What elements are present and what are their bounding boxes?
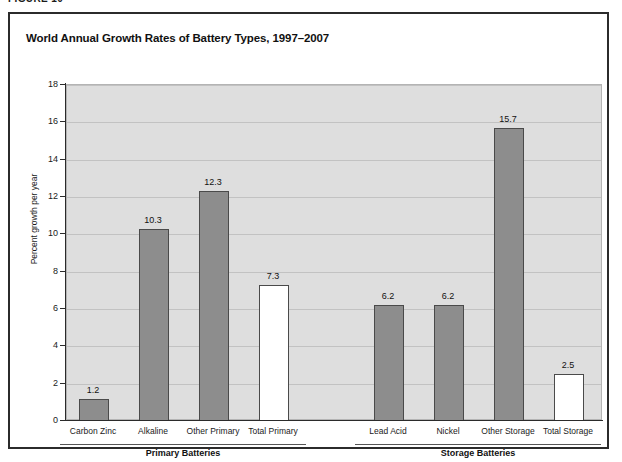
bar[interactable] (374, 305, 404, 421)
bar-value-label: 7.3 (267, 271, 280, 281)
y-axis-tick (60, 420, 65, 421)
y-axis-tick (60, 383, 65, 384)
bar-value-label: 10.3 (144, 215, 162, 225)
bar[interactable] (259, 285, 289, 421)
y-axis-tick-label: 4 (14, 340, 58, 350)
bar[interactable] (199, 191, 229, 421)
category-label: Other Primary (187, 426, 240, 436)
y-axis-tick (60, 159, 65, 160)
gridline (67, 122, 601, 123)
y-axis-tick (60, 84, 65, 85)
category-label: Carbon Zinc (70, 426, 116, 436)
y-axis-tick (60, 233, 65, 234)
group-bracket-line (355, 444, 601, 445)
bar-value-label: 2.5 (562, 360, 575, 370)
y-axis-tick (60, 121, 65, 122)
category-label: Total Storage (543, 426, 593, 436)
category-label: Nickel (436, 426, 459, 436)
y-axis-tick-label: 2 (14, 378, 58, 388)
bar[interactable] (494, 128, 524, 421)
group-bracket-line (60, 444, 306, 445)
bar-value-label: 6.2 (382, 291, 395, 301)
figure-frame: World Annual Growth Rates of Battery Typ… (8, 12, 609, 449)
y-axis-tick (60, 271, 65, 272)
category-label: Lead Acid (369, 426, 406, 436)
figure-caption: FIGURE 10 (8, 0, 63, 4)
bar-value-label: 12.3 (204, 177, 222, 187)
bar[interactable] (554, 374, 584, 421)
group-label: Primary Batteries (146, 448, 221, 458)
chart-title: World Annual Growth Rates of Battery Typ… (26, 32, 329, 44)
bar-value-label: 15.7 (499, 114, 517, 124)
bar-value-label: 6.2 (442, 291, 455, 301)
y-axis-tick (60, 308, 65, 309)
group-label: Storage Batteries (441, 448, 516, 458)
y-axis-tick-label: 0 (14, 415, 58, 425)
bar[interactable] (139, 229, 169, 421)
y-axis-tick-label: 16 (14, 116, 58, 126)
category-label: Alkaline (138, 426, 168, 436)
y-axis-title: Percent growth per year (29, 149, 39, 289)
y-axis-tick-label: 6 (14, 303, 58, 313)
bar[interactable] (79, 399, 109, 421)
y-axis-tick-label: 18 (14, 79, 58, 89)
category-label: Other Storage (481, 426, 534, 436)
y-axis-line (65, 83, 66, 421)
plot-area (66, 84, 602, 420)
category-label: Total Primary (248, 426, 298, 436)
x-axis-line (65, 420, 603, 421)
gridline (67, 85, 601, 86)
bar[interactable] (434, 305, 464, 421)
y-axis-tick (60, 345, 65, 346)
y-axis-tick (60, 196, 65, 197)
bar-value-label: 1.2 (87, 385, 100, 395)
